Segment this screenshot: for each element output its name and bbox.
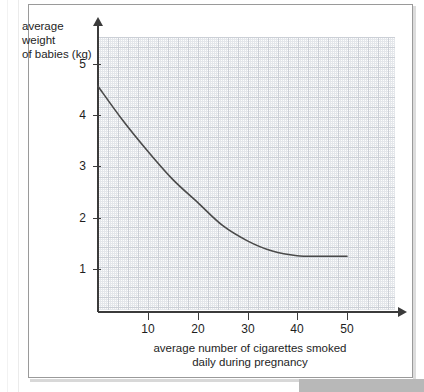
page-canvas: 5 4 3 2 1 10 20 30 40 50 average weight … (0, 0, 424, 392)
y-axis-title: average weight of babies (kg) (22, 19, 98, 61)
y-tick-4 (93, 115, 101, 116)
y-tick-label-1: 1 (62, 262, 86, 276)
chart-figure: 5 4 3 2 1 10 20 30 40 50 average weight … (0, 0, 424, 392)
x-axis-title-line-1: average number of cigarettes smoked (140, 341, 360, 355)
x-axis-title-line-2: daily during pregnancy (140, 355, 360, 369)
x-tick-label-10: 10 (133, 322, 163, 336)
y-tick-label-3: 3 (62, 159, 86, 173)
y-tick-3 (93, 166, 101, 167)
x-tick-label-40: 40 (282, 322, 312, 336)
x-axis-title: average number of cigarettes smoked dail… (140, 341, 360, 369)
x-tick-10 (148, 312, 149, 320)
x-tick-40 (297, 312, 298, 320)
x-tick-label-50: 50 (332, 322, 362, 336)
x-tick-20 (198, 312, 199, 320)
x-tick-label-20: 20 (183, 322, 213, 336)
x-axis-arrow-icon (398, 307, 407, 317)
y-tick-label-4: 4 (62, 108, 86, 122)
x-tick-label-30: 30 (233, 322, 263, 336)
y-tick-5 (93, 64, 101, 65)
y-axis-title-line-1: average weight (22, 19, 98, 47)
y-tick-1 (93, 269, 101, 270)
y-tick-2 (93, 218, 101, 219)
y-tick-label-2: 2 (62, 211, 86, 225)
y-axis-title-line-2: of babies (kg) (22, 47, 98, 61)
x-tick-50 (347, 312, 348, 320)
chart-grid-panel (98, 37, 395, 310)
x-tick-30 (248, 312, 249, 320)
